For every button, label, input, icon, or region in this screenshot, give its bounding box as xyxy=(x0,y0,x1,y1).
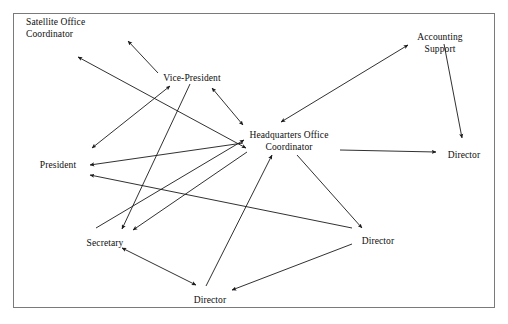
node-label-president: President xyxy=(40,160,76,172)
node-label-headquarters: Headquarters Office Coordinator xyxy=(249,130,328,153)
node-label-director_mid: Director xyxy=(362,236,394,248)
node-label-secretary: Secretary xyxy=(87,238,124,250)
node-label-vice_president: Vice-President xyxy=(163,73,220,85)
node-label-accounting: Accounting Support xyxy=(406,32,474,55)
diagram-border xyxy=(14,14,495,308)
node-label-director_bottom: Director xyxy=(194,295,226,307)
node-label-satellite: Satellite Office Coordinator xyxy=(26,17,85,40)
node-label-director_right: Director xyxy=(448,150,480,162)
